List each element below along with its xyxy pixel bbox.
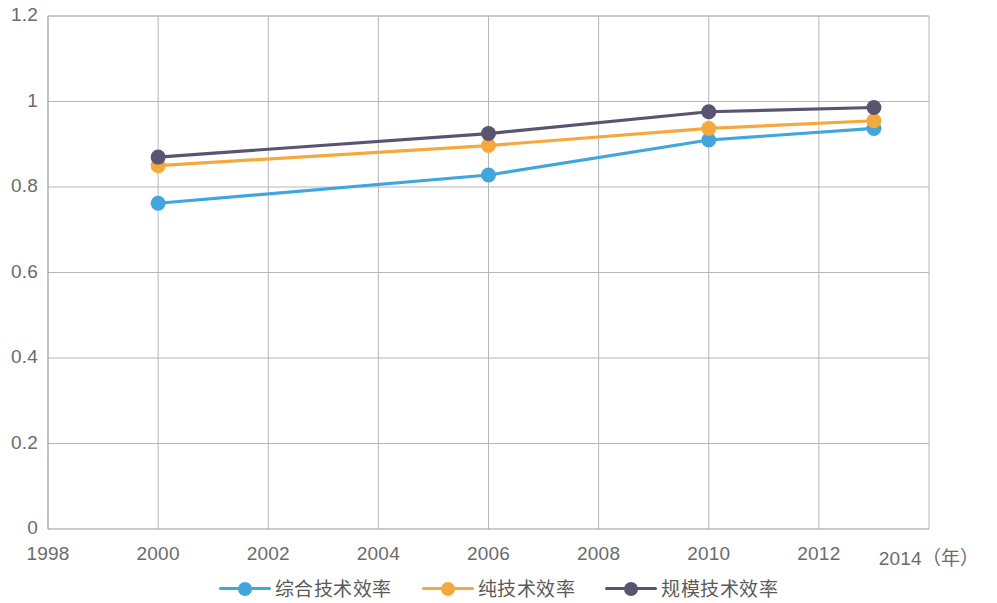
y-tick-label: 0 (0, 517, 38, 539)
y-tick-label: 1.2 (0, 4, 38, 26)
series-line-2 (158, 107, 874, 157)
data-point (701, 104, 716, 119)
data-point (701, 121, 716, 136)
x-tick-label: 2008 (539, 543, 659, 565)
data-point (866, 113, 881, 128)
line-chart: 00.20.40.60.811.2 1998200020022004200620… (0, 0, 997, 603)
legend-item[interactable]: 综合技术效率 (219, 574, 392, 601)
x-tick-label: 1998 (0, 543, 108, 565)
series-line-0 (158, 128, 874, 203)
x-tick-label: 2010 (649, 543, 769, 565)
legend-marker-icon (605, 580, 657, 596)
y-tick-label: 0.8 (0, 175, 38, 197)
y-tick-label: 0.2 (0, 432, 38, 454)
data-point (151, 196, 166, 211)
data-point (866, 100, 881, 115)
legend-dot-swatch (441, 582, 455, 596)
x-tick-label: 2002 (208, 543, 328, 565)
data-point (481, 168, 496, 183)
data-point (481, 126, 496, 141)
legend-marker-icon (219, 580, 271, 596)
x-tick-label: 2006 (429, 543, 549, 565)
series-lines (158, 107, 874, 203)
y-tick-label: 0.4 (0, 346, 38, 368)
x-tick-label: 2004 (318, 543, 438, 565)
series-line-1 (158, 121, 874, 166)
legend-item[interactable]: 纯技术效率 (422, 574, 576, 601)
legend-marker-icon (422, 580, 474, 596)
x-tick-label: 2014（年） (869, 543, 989, 570)
data-point (151, 150, 166, 165)
legend-dot-swatch (624, 582, 638, 596)
x-tick-label: 2000 (98, 543, 218, 565)
x-tick-label: 2012 (759, 543, 879, 565)
legend-label: 规模技术效率 (661, 574, 778, 601)
chart-legend: 综合技术效率纯技术效率规模技术效率 (0, 574, 997, 601)
legend-dot-swatch (238, 582, 252, 596)
legend-label: 纯技术效率 (478, 574, 576, 601)
legend-label: 综合技术效率 (275, 574, 392, 601)
legend-item[interactable]: 规模技术效率 (605, 574, 778, 601)
y-tick-label: 1 (0, 90, 38, 112)
plot-area (0, 0, 997, 603)
y-tick-label: 0.6 (0, 261, 38, 283)
